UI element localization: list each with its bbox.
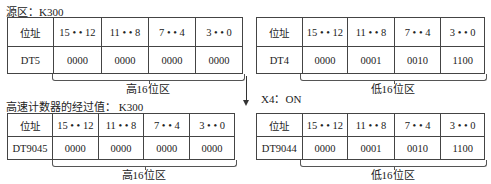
value-cell: 0000 [53, 47, 101, 74]
brace-label: 高16位区 [52, 80, 243, 96]
header-cell: 7 • • 4 [144, 114, 190, 137]
register-name: DT9044 [257, 137, 303, 160]
condition-label: X4：ON [261, 90, 301, 106]
header-cell: 7 • • 4 [148, 18, 195, 47]
value-cell: 0001 [348, 47, 395, 74]
value-cell: 0000 [98, 137, 144, 160]
value-cell: 0000 [144, 137, 190, 160]
header-cell: 3 • • 0 [195, 18, 242, 47]
value-cell: 1100 [441, 47, 485, 74]
header-cell: 7 • • 4 [394, 18, 441, 47]
counter-label: 高速计数器的经过值： K300 [6, 98, 143, 114]
header-cell: 3 • • 0 [441, 114, 485, 137]
header-cell: 15 • • 12 [302, 114, 348, 137]
brace-label: 高16位区 [52, 166, 235, 182]
header-cell: 位址 [257, 18, 303, 47]
register-table-dt9044: 位址 15 • • 12 11 • • 8 7 • • 4 3 • • 0 DT… [256, 113, 485, 160]
arrow-line [246, 76, 247, 102]
header-cell: 3 • • 0 [441, 18, 485, 47]
header-cell: 15 • • 12 [302, 18, 348, 47]
value-cell: 0000 [190, 137, 235, 160]
register-table-dt4: 位址 15 • • 12 11 • • 8 7 • • 4 3 • • 0 DT… [256, 17, 485, 74]
register-name: DT4 [257, 47, 303, 74]
register-name: DT9045 [8, 137, 53, 160]
header-cell: 11 • • 8 [348, 114, 395, 137]
header-cell: 位址 [8, 18, 54, 47]
value-cell: 0001 [348, 137, 395, 160]
value-cell: 0000 [195, 47, 242, 74]
value-cell: 0000 [148, 47, 195, 74]
header-cell: 7 • • 4 [394, 114, 441, 137]
value-cell: 0010 [394, 47, 441, 74]
value-cell: 0000 [302, 47, 348, 74]
register-table-dt9045: 位址 15 • • 12 11 • • 8 7 • • 4 3 • • 0 DT… [7, 113, 235, 160]
value-cell: 0000 [101, 47, 148, 74]
header-cell: 15 • • 12 [53, 18, 101, 47]
header-cell: 位址 [257, 114, 303, 137]
header-cell: 3 • • 0 [190, 114, 235, 137]
register-table-dt5: 位址 15 • • 12 11 • • 8 7 • • 4 3 • • 0 DT… [7, 17, 243, 74]
header-cell: 11 • • 8 [98, 114, 144, 137]
header-cell: 15 • • 12 [52, 114, 98, 137]
register-name: DT5 [8, 47, 54, 74]
arrow-down-icon [243, 100, 249, 106]
header-cell: 11 • • 8 [101, 18, 148, 47]
value-cell: 0010 [394, 137, 441, 160]
value-cell: 0000 [302, 137, 348, 160]
header-cell: 位址 [8, 114, 53, 137]
value-cell: 0000 [52, 137, 98, 160]
brace-label: 低16位区 [300, 80, 485, 96]
brace-label: 低16位区 [300, 166, 485, 182]
header-cell: 11 • • 8 [348, 18, 395, 47]
value-cell: 1100 [441, 137, 485, 160]
